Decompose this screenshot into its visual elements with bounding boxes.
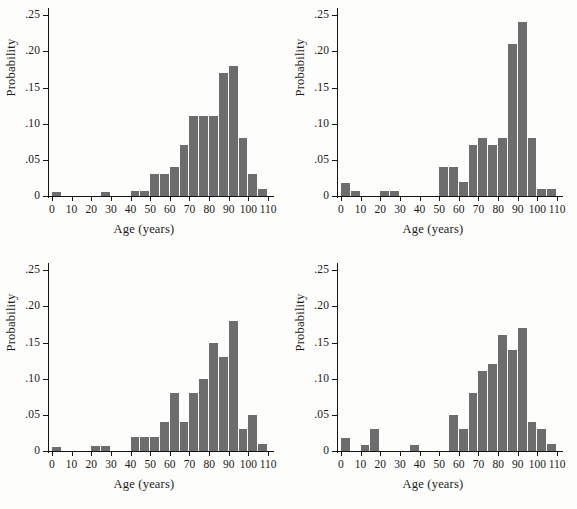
histogram-bar (258, 189, 268, 196)
x-axis-tick-label: 80 (492, 203, 504, 215)
x-axis-tick-label: 50 (433, 203, 445, 215)
x-axis-tick-label: 50 (144, 203, 156, 215)
x-axis-tick (361, 196, 362, 201)
x-axis-tick-label: 20 (85, 458, 97, 470)
x-axis-tick-label: 40 (125, 203, 137, 215)
x-axis-tick-label: 110 (260, 458, 277, 470)
histogram-bar (449, 167, 459, 196)
x-axis-tick (248, 451, 249, 456)
histogram-bar (498, 138, 508, 196)
histogram-bar (219, 73, 229, 196)
y-axis-tick (43, 88, 48, 89)
y-axis-tick (43, 196, 48, 197)
histogram-bar (528, 422, 538, 451)
x-axis-tick (537, 196, 538, 201)
x-axis-tick (557, 196, 558, 201)
histogram-bar (160, 422, 170, 451)
x-axis-tick (557, 451, 558, 456)
y-axis-tick-label: 0 (12, 190, 40, 202)
histogram-bar (258, 444, 268, 451)
histogram-bar (459, 182, 469, 196)
y-axis-tick (332, 196, 337, 197)
x-axis-tick (209, 196, 210, 201)
chart-panel-bottom-right: 0.05.10.15.20.25 01020304050607080901001… (289, 255, 577, 509)
x-axis-tick-label: 70 (473, 458, 485, 470)
histogram-bar (101, 192, 111, 196)
y-axis-tick (43, 15, 48, 16)
histogram-bar (140, 437, 150, 451)
x-axis-tick (341, 196, 342, 201)
histogram-bar (199, 116, 209, 196)
x-axis-tick-label: 40 (125, 458, 137, 470)
histogram-bar (537, 189, 547, 196)
x-axis-tick (111, 451, 112, 456)
x-axis-tick-label: 0 (49, 203, 55, 215)
histogram-bar (459, 429, 469, 451)
histogram-bar (537, 429, 547, 451)
histogram-bar (239, 138, 249, 196)
x-axis-tick-label: 80 (492, 458, 504, 470)
x-axis-tick-label: 0 (49, 458, 55, 470)
bars-layer (0, 255, 288, 451)
histogram-bar (518, 22, 528, 196)
chart-panel-top-left: 0.05.10.15.20.25 01020304050607080901001… (0, 0, 288, 254)
histogram-bar (150, 174, 160, 196)
x-axis-title: Age (years) (289, 222, 577, 237)
x-axis-tick (459, 451, 460, 456)
y-axis-tick (332, 451, 337, 452)
histogram-bar (101, 446, 111, 451)
chart-panel-bottom-left: 0.05.10.15.20.25 01020304050607080901001… (0, 255, 288, 509)
histogram-bar (180, 422, 190, 451)
histogram-bar (131, 437, 141, 451)
x-axis-tick (111, 196, 112, 201)
x-axis-tick (439, 196, 440, 201)
x-axis-tick (229, 451, 230, 456)
histogram-bar (229, 66, 239, 196)
histogram-bar (189, 116, 199, 196)
x-axis-tick (478, 196, 479, 201)
x-axis-tick (400, 196, 401, 201)
x-axis-tick (150, 451, 151, 456)
y-axis-tick (43, 343, 48, 344)
x-axis-tick (189, 196, 190, 201)
x-axis-tick (209, 451, 210, 456)
x-axis-tick (498, 196, 499, 201)
x-axis-tick (229, 196, 230, 201)
y-axis-tick (332, 88, 337, 89)
x-axis-tick (170, 196, 171, 201)
y-axis-tick (43, 160, 48, 161)
x-axis-tick-label: 50 (433, 458, 445, 470)
x-axis-tick (268, 196, 269, 201)
histogram-bar (488, 364, 498, 451)
y-axis-tick (332, 160, 337, 161)
x-axis-title: Age (years) (0, 222, 288, 237)
histogram-bar (508, 44, 518, 196)
x-axis-tick-label: 90 (512, 203, 524, 215)
y-axis-tick (332, 270, 337, 271)
histogram-bar (508, 350, 518, 451)
x-axis-tick-label: 0 (338, 203, 344, 215)
y-axis-tick (43, 51, 48, 52)
histogram-bar (518, 328, 528, 451)
x-axis-tick-label: 50 (144, 458, 156, 470)
x-axis-tick-label: 90 (223, 203, 235, 215)
y-axis-tick-label: 0 (301, 190, 329, 202)
x-axis-tick-label: 100 (240, 458, 257, 470)
histogram-bar (91, 446, 101, 451)
x-axis-tick-label: 60 (453, 458, 465, 470)
x-axis-tick (518, 451, 519, 456)
histogram-bar (239, 429, 249, 451)
x-axis-tick-label: 10 (355, 458, 367, 470)
histogram-bar (469, 393, 479, 451)
y-axis-tick-label: .05 (12, 409, 40, 421)
y-axis-tick (332, 15, 337, 16)
x-axis-tick (52, 196, 53, 201)
y-axis-tick (332, 379, 337, 380)
histogram-bar (248, 415, 258, 451)
x-axis-line (333, 196, 563, 197)
x-axis-tick-label: 110 (549, 458, 566, 470)
x-axis-tick-label: 10 (66, 203, 78, 215)
y-axis-title: Probability (4, 20, 19, 116)
histogram-bar (219, 357, 229, 451)
histogram-bar (170, 167, 180, 196)
